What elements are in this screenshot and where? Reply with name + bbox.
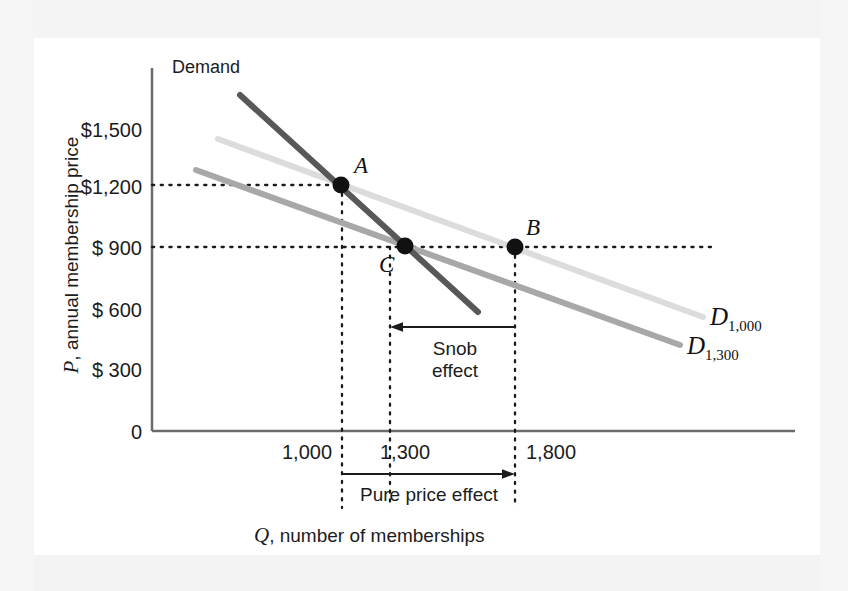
scan-edge-right [820, 0, 848, 591]
curve-d1300 [196, 170, 680, 345]
curve-label-d1000-sub: 1,000 [728, 318, 762, 334]
snob-effect-arrowhead [390, 322, 403, 332]
curve-label-d1300: D1,300 [687, 333, 739, 363]
curve-label-d1000-main: D [710, 303, 728, 330]
pure-price-effect-arrowhead [502, 469, 515, 479]
chart-plate: $1,500 $1,200 $ 900 $ 600 $ 300 0 1,000 … [34, 38, 820, 555]
y-axis-title: P, annual membership price [61, 144, 82, 374]
x-axis-title-text: , number of memberships [269, 525, 484, 546]
y-tick-300: $ 300 [26, 360, 142, 380]
scan-edge-left [0, 0, 34, 591]
point-label-a: A [354, 154, 368, 177]
pure-price-effect-label: Pure price effect [342, 484, 516, 506]
scan-edge-bottom [0, 555, 848, 591]
x-axis-title: Q, number of memberships [254, 525, 485, 546]
y-tick-900: $ 900 [26, 238, 142, 258]
chart-canvas [34, 38, 820, 555]
y-axis-title-text: , annual membership price [61, 137, 82, 361]
x-tick-1300: 1,300 [372, 442, 438, 462]
y-tick-1200: $1,200 [26, 177, 142, 197]
point-label-c: C [379, 253, 394, 276]
y-tick-600: $ 600 [26, 300, 142, 320]
figure-page: $1,500 $1,200 $ 900 $ 600 $ 300 0 1,000 … [0, 0, 848, 591]
snob-effect-label-line2: effect [392, 360, 518, 382]
x-axis-title-symbol: Q [254, 523, 269, 547]
curve-demand [240, 95, 478, 312]
x-tick-1000: 1,000 [274, 442, 340, 462]
point-marker-b [507, 239, 524, 256]
x-tick-1800: 1,800 [518, 442, 584, 462]
snob-effect-label: Snob effect [392, 338, 518, 382]
curve-label-d1300-main: D [687, 332, 705, 359]
curve-label-d1000: D1,000 [710, 304, 762, 334]
point-marker-c [397, 238, 414, 255]
point-label-b: B [526, 216, 540, 239]
curve-d1000 [218, 139, 703, 317]
origin-label: 0 [26, 422, 142, 442]
demand-curve-label: Demand [172, 58, 240, 76]
point-marker-a [333, 177, 350, 194]
y-tick-1500: $1,500 [26, 120, 142, 140]
scan-edge-top [0, 0, 848, 40]
y-axis-title-symbol: P [59, 361, 83, 374]
snob-effect-label-line1: Snob [392, 338, 518, 360]
curve-label-d1300-sub: 1,300 [705, 347, 739, 363]
